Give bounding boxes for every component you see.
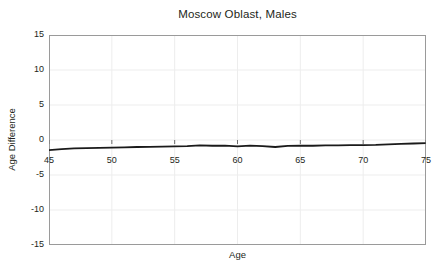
y-tick-label: -5 [14, 169, 44, 179]
chart-title: Moscow Oblast, Males [49, 8, 426, 20]
x-tick-label: 45 [34, 155, 64, 165]
x-tick-label: 55 [160, 155, 190, 165]
x-axis-label: Age [49, 249, 426, 260]
y-tick-label: 15 [14, 29, 44, 39]
y-tick-label: -15 [14, 239, 44, 249]
x-tick-label: 70 [348, 155, 378, 165]
x-tick-label: 60 [223, 155, 253, 165]
plot-canvas [49, 35, 426, 245]
x-tick-label: 50 [97, 155, 127, 165]
chart-figure: Moscow Oblast, Males Age Difference 1510… [0, 0, 442, 274]
x-axis-tick-marks [49, 140, 426, 144]
x-axis-tick-labels: 45505560657075 [49, 155, 426, 169]
plot-area [49, 35, 426, 245]
y-tick-label: 5 [14, 99, 44, 109]
y-tick-label: -10 [14, 204, 44, 214]
y-tick-label: 10 [14, 64, 44, 74]
y-tick-label: 0 [14, 134, 44, 144]
x-tick-label: 75 [411, 155, 441, 165]
y-axis-tick-labels: 151050-5-10-15 [10, 35, 44, 245]
x-tick-label: 65 [285, 155, 315, 165]
